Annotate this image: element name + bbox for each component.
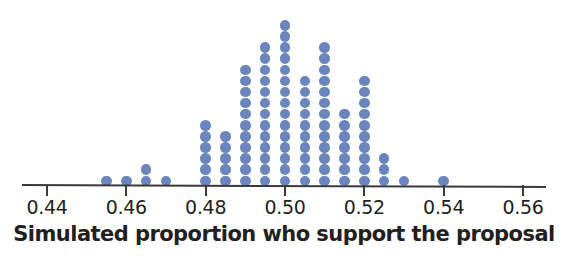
data-dot	[260, 42, 271, 53]
data-dot	[319, 142, 330, 153]
data-dot	[339, 109, 350, 120]
x-axis-tick-label: 0.50	[250, 196, 320, 218]
data-dot	[319, 120, 330, 131]
x-axis-tick-label: 0.52	[329, 196, 399, 218]
data-dot	[359, 153, 370, 164]
data-dot	[339, 164, 350, 175]
data-dot	[200, 131, 211, 142]
data-dot	[280, 120, 291, 131]
data-dot	[319, 42, 330, 53]
data-dot	[359, 76, 370, 87]
data-dot	[200, 164, 211, 175]
data-dot	[280, 65, 291, 76]
data-dot	[240, 98, 251, 109]
x-axis-tick-label: 0.46	[91, 196, 161, 218]
data-dot	[280, 109, 291, 120]
dot-stack	[238, 64, 252, 186]
data-dot	[260, 153, 271, 164]
data-dot	[220, 131, 231, 142]
data-dot	[300, 131, 311, 142]
data-dot	[359, 109, 370, 120]
dot-stack	[298, 75, 312, 186]
data-dot	[319, 65, 330, 76]
dot-stack	[377, 153, 391, 186]
x-axis-tick	[46, 185, 48, 196]
x-axis-tick	[125, 185, 127, 196]
data-dot	[300, 87, 311, 98]
x-axis-tick-label: 0.44	[12, 196, 82, 218]
x-axis-tick	[443, 185, 445, 196]
x-axis-tick	[205, 185, 207, 196]
x-axis-tick-label: 0.56	[488, 196, 558, 218]
data-dot	[240, 164, 251, 175]
data-dot	[260, 53, 271, 64]
x-axis-tick	[522, 185, 524, 196]
data-dot	[319, 153, 330, 164]
data-dot	[260, 109, 271, 120]
data-dot	[339, 131, 350, 142]
data-dot	[200, 120, 211, 131]
data-dot	[200, 153, 211, 164]
data-dot	[319, 109, 330, 120]
data-dot	[220, 142, 231, 153]
x-axis-title: Simulated proportion who support the pro…	[0, 222, 568, 246]
data-dot	[280, 42, 291, 53]
dot-stack	[318, 42, 332, 186]
data-dot	[300, 153, 311, 164]
data-dot	[280, 31, 291, 42]
dot-stack	[397, 175, 411, 186]
x-axis-tick	[284, 185, 286, 196]
data-dot	[339, 120, 350, 131]
data-dot	[260, 142, 271, 153]
dot-stack	[139, 164, 153, 186]
data-dot	[260, 76, 271, 87]
data-dot	[359, 120, 370, 131]
data-dot	[141, 164, 152, 175]
data-dot	[319, 53, 330, 64]
data-dot	[280, 164, 291, 175]
data-dot	[260, 120, 271, 131]
dot-stack	[357, 75, 371, 186]
dot-stack	[219, 131, 233, 186]
data-dot	[280, 20, 291, 31]
data-dot	[359, 98, 370, 109]
data-dot	[339, 153, 350, 164]
data-dot	[359, 87, 370, 98]
dot-stack	[258, 42, 272, 186]
data-dot	[319, 131, 330, 142]
plot-area	[0, 0, 568, 186]
data-dot	[280, 87, 291, 98]
data-dot	[300, 98, 311, 109]
data-dot	[339, 142, 350, 153]
data-dot	[300, 76, 311, 87]
data-dot	[359, 164, 370, 175]
data-dot	[319, 98, 330, 109]
data-dot	[260, 164, 271, 175]
data-dot	[260, 87, 271, 98]
data-dot	[240, 76, 251, 87]
data-dot	[280, 142, 291, 153]
data-dot	[240, 153, 251, 164]
data-dot	[260, 65, 271, 76]
data-dot	[359, 142, 370, 153]
data-dot	[379, 164, 390, 175]
x-axis-tick	[363, 185, 365, 196]
data-dot	[240, 131, 251, 142]
data-dot	[240, 120, 251, 131]
data-dot	[240, 65, 251, 76]
data-dot	[300, 164, 311, 175]
data-dot	[300, 120, 311, 131]
data-dot	[319, 164, 330, 175]
dotplot-figure: 0.440.460.480.500.520.540.56 Simulated p…	[0, 0, 568, 257]
data-dot	[220, 164, 231, 175]
data-dot	[359, 131, 370, 142]
data-dot	[240, 109, 251, 120]
data-dot	[240, 87, 251, 98]
data-dot	[280, 98, 291, 109]
data-dot	[300, 109, 311, 120]
data-dot	[379, 153, 390, 164]
data-dot	[280, 153, 291, 164]
data-dot	[260, 131, 271, 142]
x-axis-tick-label: 0.48	[171, 196, 241, 218]
data-dot	[240, 142, 251, 153]
